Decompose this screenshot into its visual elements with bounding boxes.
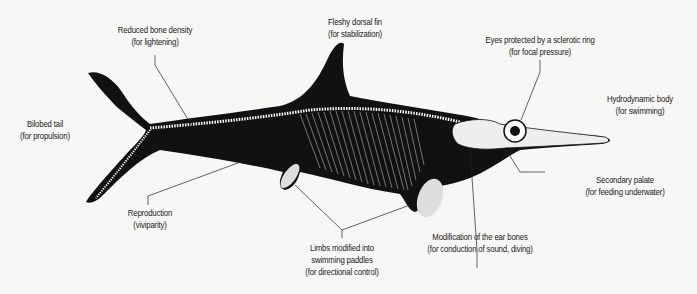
- label-dorsal-fin: Fleshy dorsal fin (for stabilization): [310, 16, 400, 40]
- label-ear-bones: Modification of the ear bones (for condu…: [414, 231, 545, 255]
- eye-pupil: [510, 126, 520, 136]
- label-hydrodynamic: Hydrodynamic body (for swimming): [595, 93, 685, 117]
- label-limbs: Limbs modified into swimming paddles (fo…: [293, 242, 391, 278]
- label-secondary-palate: Secondary palate (for feeding underwater…: [572, 174, 679, 198]
- label-reproduction: Reproduction (viviparity): [117, 207, 183, 231]
- label-bilobed-tail: Bilobed tail (for propulsion): [16, 118, 73, 142]
- label-sclerotic-ring: Eyes protected by a sclerotic ring (for …: [474, 34, 605, 58]
- ichthyosaur-diagram: Reduced bone density (for lightening) Fl…: [0, 0, 697, 294]
- label-bone-density: Reduced bone density (for lightening): [102, 24, 209, 48]
